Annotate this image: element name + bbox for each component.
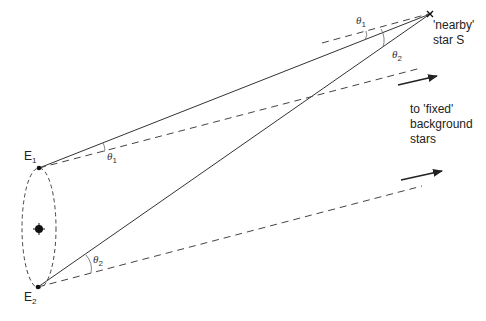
theta1-bottom-label: θ1 — [107, 150, 117, 165]
earth-position-e2 — [36, 285, 41, 290]
earth-position-e1 — [37, 166, 42, 171]
e2-label: E2 — [24, 290, 36, 306]
background-stars-label: to 'fixed' background stars — [410, 102, 473, 147]
star-label-line2: star S — [433, 33, 474, 48]
arrow-lower — [401, 171, 442, 180]
angle-arc-theta1-bottom — [103, 143, 105, 152]
theta1-top-label: θ1 — [356, 14, 366, 29]
sightline-e2-to-star — [38, 14, 430, 287]
background-line-star — [322, 13, 432, 43]
e1-label: E1 — [24, 149, 36, 165]
star-label: 'nearby' star S — [433, 18, 474, 48]
parallax-diagram — [0, 0, 486, 321]
background-line-e2 — [38, 186, 422, 287]
angle-arc-theta2-top — [381, 29, 384, 47]
background-label-line3: stars — [410, 132, 473, 147]
arrow-upper — [398, 76, 437, 85]
background-label-line1: to 'fixed' — [410, 102, 473, 117]
theta2-bottom-label: θ2 — [93, 253, 103, 268]
star-label-line1: 'nearby' — [433, 18, 474, 33]
theta2-top-label: θ2 — [392, 48, 402, 63]
sightline-e1-to-star — [39, 14, 430, 168]
angle-arc-theta2-bottom — [86, 255, 91, 273]
background-label-line2: background — [410, 117, 473, 132]
sun-rays — [33, 223, 45, 235]
